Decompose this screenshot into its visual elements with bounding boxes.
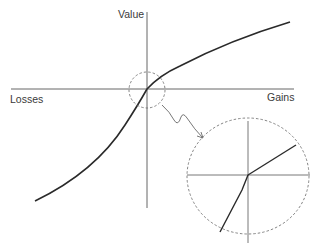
magnified-losses-segment [220, 175, 248, 232]
gains-label: Gains [267, 91, 294, 103]
y-axis-label: Value [118, 8, 144, 20]
callout-arrow [162, 105, 202, 137]
gains-curve [147, 22, 290, 89]
magnified-gains-segment [248, 145, 296, 175]
losses-label: Losses [10, 93, 43, 105]
losses-curve [35, 89, 147, 201]
value-function-diagram [0, 0, 320, 250]
